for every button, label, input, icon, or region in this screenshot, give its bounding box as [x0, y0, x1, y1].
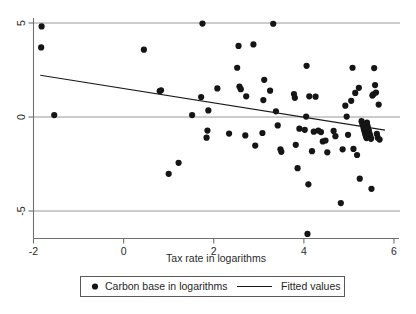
- data-point: [270, 21, 276, 27]
- data-point: [349, 65, 355, 71]
- data-point: [376, 136, 382, 142]
- data-point: [275, 122, 281, 128]
- data-point: [309, 148, 315, 154]
- scatter-points-group: [38, 20, 383, 237]
- data-point: [293, 142, 299, 148]
- data-point: [204, 127, 210, 133]
- data-point: [260, 97, 266, 103]
- data-point: [368, 136, 374, 142]
- data-point: [234, 65, 240, 71]
- data-point: [198, 94, 204, 100]
- data-point: [368, 186, 374, 192]
- x-axis-title: Tax rate in logarithms: [166, 252, 266, 264]
- data-point: [189, 112, 195, 118]
- x-tick-label-4: 4: [301, 245, 307, 257]
- data-point: [199, 20, 205, 26]
- data-point: [294, 165, 300, 171]
- data-point: [322, 137, 328, 143]
- data-point: [166, 171, 172, 177]
- data-point: [302, 127, 308, 133]
- y-tick-label--5: -5: [15, 206, 27, 215]
- data-point: [176, 160, 182, 166]
- data-point: [242, 132, 248, 138]
- data-point: [243, 93, 249, 99]
- data-point: [259, 130, 265, 136]
- data-point: [332, 133, 338, 139]
- x-tick-label-6: 6: [391, 245, 397, 257]
- data-point: [214, 85, 220, 91]
- data-point: [340, 146, 346, 152]
- y-axis-tick-labels: 50-5: [15, 20, 27, 216]
- data-point: [344, 114, 350, 120]
- data-point: [226, 130, 232, 136]
- data-point: [158, 87, 164, 93]
- x-axis-ticks-group: [34, 239, 395, 244]
- data-point: [205, 107, 211, 113]
- y-tick-label-0: 0: [15, 114, 27, 120]
- data-point: [371, 65, 377, 71]
- data-point: [345, 132, 351, 138]
- data-point: [312, 94, 318, 100]
- y-tick-label-5: 5: [15, 20, 27, 26]
- chart-figure: -20246 50-5 Tax rate in logarithms Carbo…: [0, 0, 416, 314]
- data-point: [306, 93, 312, 99]
- data-point: [296, 126, 302, 132]
- data-point: [304, 231, 310, 237]
- data-point: [331, 128, 337, 134]
- data-point: [235, 43, 241, 49]
- data-point: [305, 181, 311, 187]
- legend-label-fit: Fitted values: [281, 280, 341, 292]
- data-point: [348, 98, 354, 104]
- legend-label-scatter: Carbon base in logarithms: [105, 280, 228, 292]
- data-point: [356, 85, 362, 91]
- legend-marker-icon: [92, 283, 98, 289]
- data-point: [38, 44, 44, 50]
- data-point: [141, 47, 147, 53]
- data-point: [350, 146, 356, 152]
- data-point: [303, 63, 309, 69]
- data-point: [278, 149, 284, 155]
- data-point: [324, 149, 330, 155]
- data-point: [39, 23, 45, 29]
- data-point: [376, 101, 382, 107]
- data-point: [318, 129, 324, 135]
- data-point: [267, 88, 273, 94]
- data-point: [51, 112, 57, 118]
- data-point: [352, 90, 358, 96]
- y-axis-ticks-group: [29, 23, 34, 211]
- data-point: [338, 200, 344, 206]
- data-point: [342, 103, 348, 109]
- data-point: [261, 77, 267, 83]
- data-point: [372, 82, 378, 88]
- fitted-values-line: [40, 75, 385, 130]
- data-point: [203, 135, 209, 141]
- data-point: [357, 176, 363, 182]
- data-point: [252, 142, 258, 148]
- data-point: [373, 89, 379, 95]
- x-tick-label-0: 0: [121, 245, 127, 257]
- x-tick-label--2: -2: [29, 245, 38, 257]
- data-point: [238, 86, 244, 92]
- data-point: [292, 95, 298, 101]
- data-point: [303, 114, 309, 120]
- data-point: [354, 152, 360, 158]
- scatter-plot-canvas: -20246 50-5 Tax rate in logarithms Carbo…: [0, 0, 416, 314]
- data-point: [273, 108, 279, 114]
- data-point: [250, 41, 256, 47]
